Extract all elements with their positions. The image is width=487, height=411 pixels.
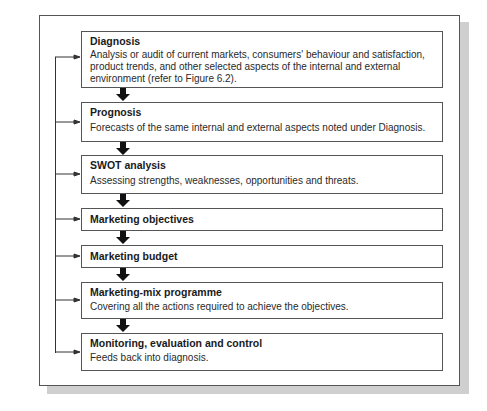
step-description: Covering all the actions required to ach… xyxy=(90,301,442,313)
step-title: Diagnosis xyxy=(90,35,442,48)
down-arrow-icon xyxy=(116,142,130,155)
down-arrow-icon xyxy=(116,231,130,244)
step-description: Forecasts of the same internal and exter… xyxy=(90,122,442,134)
step-monitoring-evaluation-control: Monitoring, evaluation and control Feeds… xyxy=(81,333,443,371)
step-marketing-objectives: Marketing objectives xyxy=(81,208,443,231)
step-title: SWOT analysis xyxy=(90,159,442,172)
step-description: Feeds back into diagnosis. xyxy=(90,352,442,364)
step-diagnosis: Diagnosis Analysis or audit of current m… xyxy=(81,31,443,88)
step-marketing-budget: Marketing budget xyxy=(81,245,443,268)
step-title: Marketing budget xyxy=(90,250,442,263)
step-title: Marketing objectives xyxy=(90,213,442,226)
step-prognosis: Prognosis Forecasts of the same internal… xyxy=(81,102,443,142)
step-title: Marketing-mix programme xyxy=(90,286,442,299)
step-description: Assessing strengths, weaknesses, opportu… xyxy=(90,175,442,187)
step-marketing-mix-programme: Marketing-mix programme Covering all the… xyxy=(81,282,443,319)
step-swot-analysis: SWOT analysis Assessing strengths, weakn… xyxy=(81,155,443,194)
down-arrow-icon xyxy=(116,268,130,281)
down-arrow-icon xyxy=(116,319,130,332)
step-description: Analysis or audit of current markets, co… xyxy=(90,49,442,85)
step-title: Prognosis xyxy=(90,106,442,119)
down-arrow-icon xyxy=(116,88,130,101)
down-arrow-icon xyxy=(116,194,130,207)
step-title: Monitoring, evaluation and control xyxy=(90,337,442,350)
